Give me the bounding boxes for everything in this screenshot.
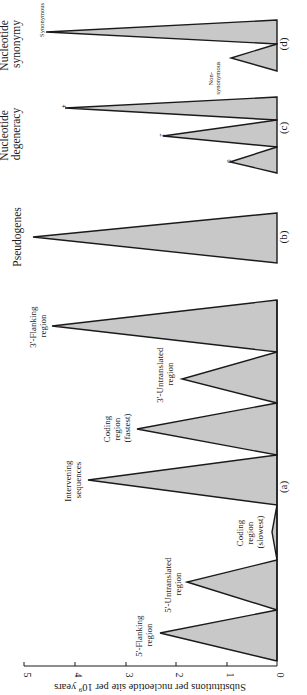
substitution-rate-chart: 0 1 2 3 4 5 Substitutions per nucleotide…	[0, 0, 307, 695]
triangle-d-nonsynonymous	[231, 44, 277, 71]
triangle-b-pseudogenes	[33, 213, 277, 263]
label-5-untranslated: 5'-Untranslated region	[163, 555, 183, 612]
triangle-a-coding-fastest	[137, 403, 277, 455]
label-5-flanking: 5'-Flanking region	[134, 613, 154, 656]
triangles	[33, 20, 277, 661]
tick-5: 5	[22, 673, 33, 678]
label-synonymous: Synonymous	[38, 3, 45, 37]
triangle-a-3flank	[52, 300, 277, 352]
triangle-c-4	[65, 97, 277, 120]
label-degeneracy-2: 2	[159, 133, 166, 136]
label-intervening: Intervening sequences	[63, 458, 83, 502]
tick-2: 2	[174, 673, 185, 678]
tick-1: 1	[225, 673, 236, 678]
label-3-untranslated: 3'-Untranslated region	[155, 345, 175, 402]
label-3-flanking: 3'-Flanking region	[28, 304, 48, 347]
panel-labels: (d) (c) (b) (a)	[277, 37, 290, 493]
panel-label-d: (d)	[277, 37, 290, 50]
panel-title-b: Pseudogenes	[11, 207, 24, 267]
tick-4: 4	[73, 673, 84, 678]
label-degeneracy-0: 0	[226, 159, 233, 162]
panel-title-d: Nucleotide synonymy	[0, 17, 23, 70]
triangle-c-0	[230, 147, 277, 173]
triangle-a-5flank	[160, 610, 277, 661]
panel-label-c: (c)	[277, 122, 290, 135]
tick-0: 0	[275, 673, 286, 678]
triangle-a-intervening	[88, 455, 277, 505]
label-coding-fastest: Coding region (fastest)	[102, 414, 132, 443]
triangle-a-3ut	[182, 352, 277, 403]
panel-title-c: Nucleotide degeneracy	[0, 107, 23, 160]
label-coding-slowest: Coding region (slowest)	[235, 516, 265, 549]
triangle-a-5ut	[187, 560, 277, 610]
panel-label-a: (a)	[277, 481, 290, 494]
label-nonsynonymous: Non- synonymous	[207, 61, 221, 94]
value-axis-ticks: 0 1 2 3 4 5	[22, 673, 286, 678]
triangle-c-2	[163, 120, 277, 147]
panel-label-b: (b)	[277, 230, 290, 243]
tick-3: 3	[124, 673, 135, 678]
triangle-a-coding-slowest	[272, 505, 277, 560]
value-axis-label: Substitutions per nucleotide site per 10…	[54, 682, 246, 694]
triangle-d-synonymous	[46, 20, 277, 44]
value-axis	[24, 662, 277, 666]
